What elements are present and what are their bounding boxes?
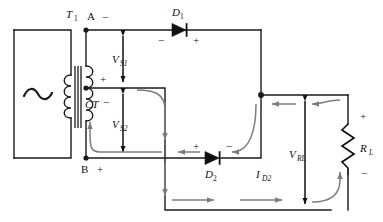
diode2-label: D 2 + − bbox=[193, 140, 232, 183]
current-arrow-ct-down bbox=[137, 90, 165, 140]
vs1-label-text: V bbox=[112, 53, 120, 65]
diode1-cathode-sign: + bbox=[193, 34, 199, 46]
diode1-label: D 1 − + bbox=[158, 6, 199, 46]
load-polarity-bottom: − bbox=[361, 167, 367, 179]
primary-bottom-wire bbox=[14, 118, 71, 158]
diode2-label-text: D bbox=[204, 168, 213, 180]
diode1-anode-sign: − bbox=[158, 34, 164, 46]
center-tap-polarity-lower: − bbox=[103, 96, 109, 108]
secondary-terminals bbox=[83, 27, 331, 210]
transformer-label: T 1 bbox=[66, 8, 78, 23]
vrl-label-text: V bbox=[289, 148, 297, 160]
circuit-diagram: T 1 A − B + + CT − D 1 − + D 2 bbox=[0, 0, 383, 222]
center-tap-text: CT bbox=[85, 98, 99, 110]
primary-circuit bbox=[14, 30, 71, 158]
primary-top-wire bbox=[14, 30, 71, 75]
node-dot-b bbox=[83, 155, 88, 160]
current-arrow-load-top bbox=[312, 100, 340, 104]
load-label: R L + − bbox=[359, 110, 373, 179]
diode2-label-sub: 2 bbox=[213, 174, 217, 183]
secondary-upper-coil bbox=[86, 66, 93, 88]
load-label-sub: L bbox=[368, 148, 373, 157]
diode2-anode-sign: + bbox=[193, 140, 199, 152]
vs2-label-text: V bbox=[112, 118, 120, 130]
schematic-canvas: T 1 A − B + + CT − D 1 − + D 2 bbox=[0, 0, 383, 222]
center-tap-polarity-upper: + bbox=[100, 73, 106, 85]
ac-source bbox=[24, 89, 52, 99]
id2-label-sub: D2 bbox=[261, 174, 271, 183]
terminal-b-text: B bbox=[81, 163, 88, 175]
vrl-label: V RL bbox=[289, 148, 306, 163]
diode1-label-text: D bbox=[171, 6, 180, 18]
load-polarity-top: + bbox=[360, 110, 366, 122]
vs2-label-sub: S2 bbox=[120, 124, 128, 133]
terminal-a-text: A bbox=[87, 10, 95, 22]
center-tap-label: + CT − bbox=[85, 73, 109, 110]
vs1-label: V S1 bbox=[112, 53, 128, 68]
vs1-label-sub: S1 bbox=[120, 59, 128, 68]
id2-label-text: I bbox=[255, 168, 261, 180]
vs2-label: V S2 bbox=[112, 118, 128, 133]
diode1-label-sub: 1 bbox=[180, 12, 184, 21]
terminal-b-polarity: + bbox=[97, 163, 103, 175]
primary-coil bbox=[64, 75, 71, 118]
current-flow-path bbox=[90, 90, 340, 202]
diode2-symbol bbox=[205, 151, 220, 165]
terminal-b-label: B + bbox=[81, 163, 103, 175]
vrl-label-sub: RL bbox=[296, 154, 306, 163]
diode1-symbol bbox=[172, 23, 187, 37]
diode2-cathode-sign: − bbox=[226, 140, 232, 152]
node-dot-a bbox=[83, 27, 88, 32]
current-arrow-d2-cathode bbox=[232, 104, 256, 152]
transformer-label-text: T bbox=[66, 8, 73, 20]
current-arrow-load-bottom bbox=[312, 172, 340, 202]
transformer-label-sub: 1 bbox=[74, 14, 78, 23]
node-dot-ct bbox=[83, 85, 88, 90]
transformer bbox=[64, 66, 93, 128]
id2-label: I D2 bbox=[255, 168, 271, 183]
terminal-a-label: A − bbox=[87, 10, 108, 23]
load-resistor bbox=[342, 124, 354, 174]
transformer-core bbox=[75, 66, 81, 128]
terminal-a-polarity: − bbox=[102, 11, 108, 23]
load-label-text: R bbox=[359, 142, 367, 154]
diode1-branch bbox=[172, 23, 264, 98]
